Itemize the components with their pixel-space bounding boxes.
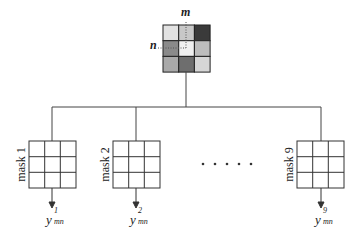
input-grid-cell [179,25,195,41]
output-superscript: 9 [323,206,327,215]
input-grid-cell [194,41,210,57]
mask-grids [29,141,344,188]
input-grid-cell [194,56,210,72]
row-index-label: n [150,38,157,53]
input-grid-cell [163,41,179,57]
input-grid-cell [194,25,210,41]
input-grid-cell [163,25,179,41]
output-subscript: mn [54,217,64,226]
output-subscript: mn [138,217,148,226]
mask-grid-9 [297,141,344,188]
input-grid-cell [179,56,195,72]
mask-grid-1 [29,141,76,188]
output-symbol: y [46,212,52,227]
ellipsis-dots [202,163,253,166]
mask-label-9: mask 9 [282,135,297,195]
connector-lines [52,72,321,141]
output-label-9: y9mn [315,212,321,228]
input-grid [158,22,210,72]
mask-label-2: mask 2 [98,135,113,195]
input-grid-cell [163,56,179,72]
mask-grid-2 [113,141,160,188]
input-grid-cell [179,41,195,57]
output-label-2: y2mn [130,212,136,228]
diagram-canvas: m n mask 1 mask 2 mask 9 y1mn y2mn y9mn [0,0,363,239]
output-superscript: 2 [138,206,142,215]
output-superscript: 1 [54,206,58,215]
output-symbol: y [130,212,136,227]
mask-label-1: mask 1 [14,135,29,195]
output-subscript: mn [323,217,333,226]
column-index-label: m [181,5,190,20]
output-symbol: y [315,212,321,227]
output-label-1: y1mn [46,212,52,228]
